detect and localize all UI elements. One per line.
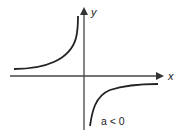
condition-annotation: a < 0 [101,115,125,127]
x-axis-label: x [167,70,174,82]
hyperbola-diagram: y x a < 0 [0,0,183,137]
curve-branch-second-quadrant [14,16,78,69]
y-axis-label: y [90,6,98,18]
